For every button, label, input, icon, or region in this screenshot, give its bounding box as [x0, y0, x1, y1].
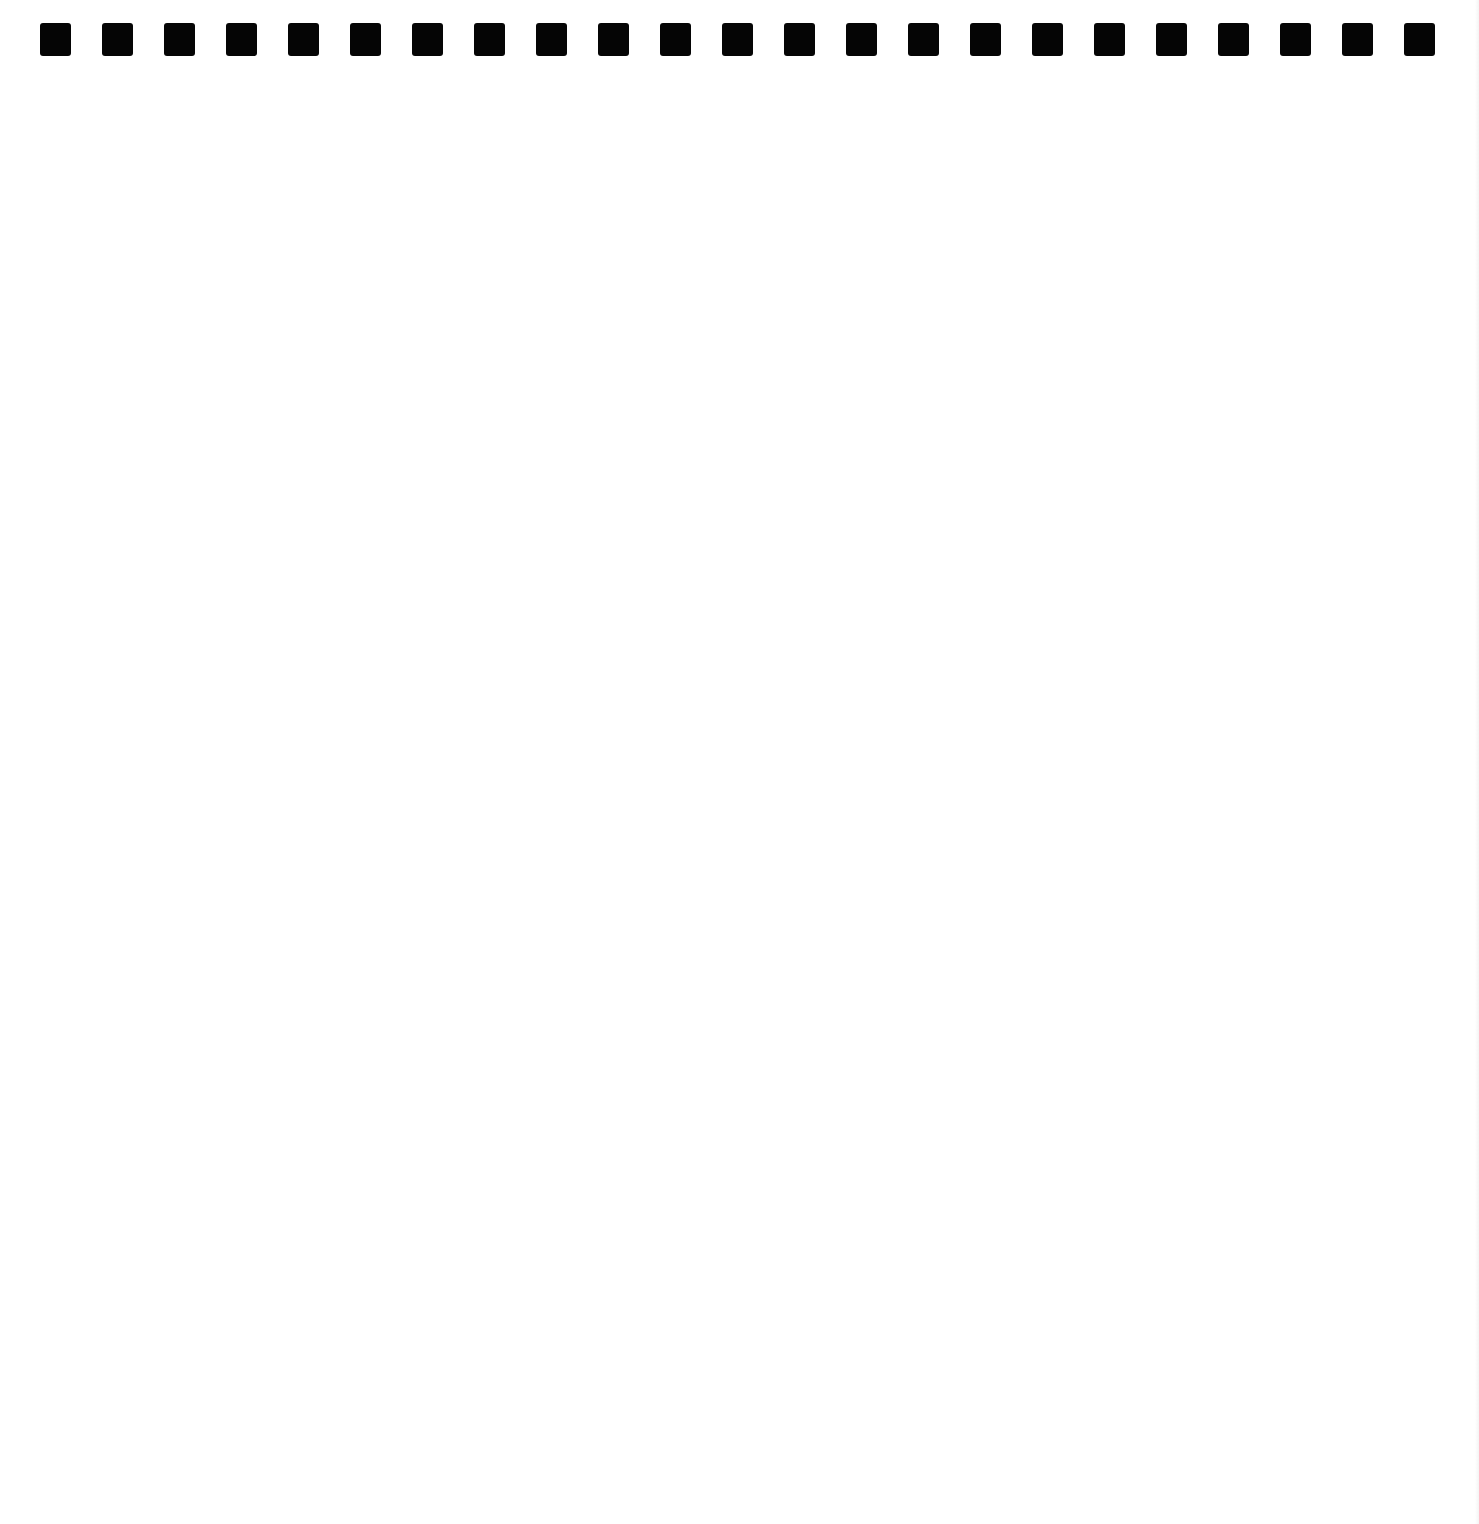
binding-hole [1218, 23, 1249, 56]
binding-hole [474, 23, 505, 56]
binding-hole [102, 23, 133, 56]
binding-holes-row [40, 23, 1434, 57]
binding-hole [1094, 23, 1125, 56]
binding-hole [970, 23, 1001, 56]
binding-hole [288, 23, 319, 56]
paper-sheet [0, 0, 1479, 1524]
binding-hole [784, 23, 815, 56]
binding-hole [598, 23, 629, 56]
binding-hole [1342, 23, 1373, 56]
binding-hole [226, 23, 257, 56]
binding-hole [1280, 23, 1311, 56]
binding-hole [412, 23, 443, 56]
sheet-edge [1475, 0, 1479, 1524]
binding-hole [846, 23, 877, 56]
binding-hole [536, 23, 567, 56]
binding-hole [660, 23, 691, 56]
binding-hole [722, 23, 753, 56]
binding-hole [350, 23, 381, 56]
binding-hole [1156, 23, 1187, 56]
binding-hole [1032, 23, 1063, 56]
binding-hole [908, 23, 939, 56]
binding-hole [40, 23, 71, 56]
binding-hole [164, 23, 195, 56]
binding-hole [1404, 23, 1435, 56]
